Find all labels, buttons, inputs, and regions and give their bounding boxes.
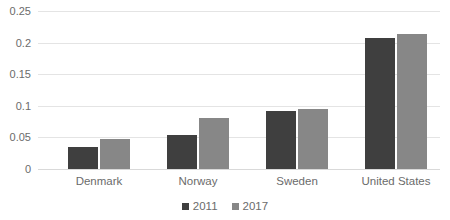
y-axis-tick-label: 0.25	[0, 6, 31, 17]
legend-item-2017[interactable]: 2017	[232, 200, 269, 212]
bar-sweden-2011	[266, 111, 296, 169]
x-axis-label-norway: Norway	[143, 174, 253, 188]
axis-baseline	[38, 169, 440, 170]
legend-swatch-icon	[182, 203, 189, 210]
legend-item-2011[interactable]: 2011	[182, 200, 218, 212]
bar-chart: 00.050.10.150.20.25 DenmarkNorwaySwedenU…	[0, 0, 450, 220]
bar-norway-2017	[199, 118, 229, 169]
bar-denmark-2017	[100, 139, 130, 169]
x-axis-category-labels: DenmarkNorwaySwedenUnited States	[38, 174, 440, 190]
y-axis-tick-label: 0.05	[0, 132, 31, 143]
plot-area	[38, 11, 440, 169]
legend-label: 2017	[243, 200, 269, 212]
y-axis-tick-label: 0.2	[0, 38, 31, 49]
y-axis-tick-label: 0.15	[0, 69, 31, 80]
bar-denmark-2011	[68, 147, 98, 169]
legend-label: 2011	[193, 200, 218, 212]
chart-title-cropped	[0, 0, 450, 3]
bar-united-states-2017	[397, 34, 427, 169]
y-axis-tick-label: 0	[0, 164, 31, 175]
legend-swatch-icon	[232, 203, 239, 210]
y-axis-tick-label: 0.1	[0, 101, 31, 112]
bar-sweden-2017	[298, 109, 328, 169]
bar-united-states-2011	[365, 38, 395, 169]
x-axis-label-united-states: United States	[341, 174, 450, 188]
bar-norway-2011	[167, 135, 197, 169]
gridline	[38, 11, 440, 12]
x-axis-label-denmark: Denmark	[44, 174, 154, 188]
chart-legend: 20112017	[0, 200, 450, 212]
x-axis-label-sweden: Sweden	[242, 174, 352, 188]
